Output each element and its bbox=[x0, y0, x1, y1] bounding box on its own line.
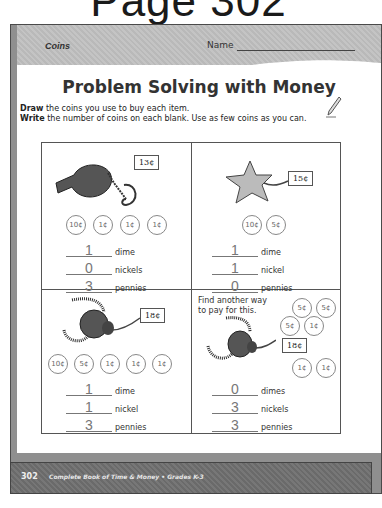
problem-cell-whistle: 13¢ 10¢ 1¢ 1¢ 1¢ 1dime 0nickels 3pennies bbox=[42, 143, 191, 289]
coin-penny: 1¢ bbox=[292, 358, 312, 378]
answer-label: nickels bbox=[115, 266, 142, 275]
coin-penny: 1¢ bbox=[120, 215, 140, 235]
name-field[interactable] bbox=[237, 50, 355, 51]
answer-label: pennies bbox=[261, 423, 292, 432]
coin-nickel: 5¢ bbox=[266, 215, 286, 235]
footer-band: 302 Complete Book of Time & Money • Grad… bbox=[10, 462, 372, 494]
price-tag: 15¢ bbox=[288, 171, 313, 186]
answer-label: nickel bbox=[115, 405, 138, 414]
instruction-text: the number of coins on each blank. Use a… bbox=[45, 114, 307, 123]
coin-nickel: 5¢ bbox=[280, 316, 300, 336]
coin-penny: 1¢ bbox=[152, 354, 172, 374]
prompt-text: Find another wayto pay for this. bbox=[198, 296, 267, 316]
problem-grid: 13¢ 10¢ 1¢ 1¢ 1¢ 1dime 0nickels 3pennies… bbox=[41, 142, 341, 434]
coin-penny: 1¢ bbox=[147, 215, 167, 235]
answer-label: nickels bbox=[261, 405, 288, 414]
page-number: 302 bbox=[21, 472, 38, 481]
coin-nickel: 5¢ bbox=[292, 298, 312, 318]
answer-value: 0 bbox=[212, 381, 258, 397]
answer-label: dime bbox=[261, 248, 281, 257]
instruction-1: Draw the coins you use to buy each item. bbox=[20, 104, 189, 113]
page-title: Page 302 bbox=[0, 0, 377, 26]
price-tag: 18¢ bbox=[140, 308, 165, 323]
whistle-icon bbox=[52, 155, 142, 210]
coin-nickel: 5¢ bbox=[74, 354, 94, 374]
answer-label: nickel bbox=[261, 266, 284, 275]
coin-penny: 1¢ bbox=[304, 316, 324, 336]
problem-cell-another-way: Find another wayto pay for this. 18¢ 5¢ … bbox=[192, 290, 341, 436]
coin-dime: 10¢ bbox=[48, 354, 68, 374]
instruction-verb: Write bbox=[20, 114, 45, 123]
name-label: Name bbox=[207, 40, 234, 50]
answer-value: 1 bbox=[66, 381, 112, 397]
instruction-text: the coins you use to buy each item. bbox=[43, 104, 189, 113]
answer-value: 3 bbox=[212, 417, 258, 433]
coin-penny: 1¢ bbox=[93, 215, 113, 235]
answer-value: 3 bbox=[66, 417, 112, 433]
problem-cell-caterpillar: 18¢ 10¢ 5¢ 1¢ 1¢ 1¢ 1dime 1nickel 3penni… bbox=[42, 290, 191, 436]
answer-value: 3 bbox=[212, 399, 258, 415]
problem-cell-starfish: 15¢ 10¢ 5¢ 1dime 1nickel 0pennies bbox=[192, 143, 341, 289]
coin-penny: 1¢ bbox=[316, 358, 336, 378]
starfish-icon bbox=[222, 157, 292, 212]
caterpillar-icon bbox=[62, 296, 142, 346]
price-tag: 18¢ bbox=[282, 338, 307, 353]
answer-label: dime bbox=[115, 248, 135, 257]
coin-dime: 10¢ bbox=[66, 215, 86, 235]
answer-label: dimes bbox=[261, 387, 285, 396]
prompt-line: Find another way bbox=[198, 296, 267, 306]
answer-value: 1 bbox=[66, 242, 112, 258]
book-title: Complete Book of Time & Money • Grades K… bbox=[49, 473, 204, 480]
answer-value: 0 bbox=[66, 260, 112, 276]
answer-label: dime bbox=[115, 387, 135, 396]
coin-dime: 10¢ bbox=[242, 215, 262, 235]
answer-label: pennies bbox=[115, 423, 146, 432]
price-tag: 13¢ bbox=[134, 155, 159, 170]
caterpillar-icon bbox=[206, 314, 276, 364]
coin-penny: 1¢ bbox=[100, 354, 120, 374]
answer-value: 1 bbox=[66, 399, 112, 415]
coin-penny: 1¢ bbox=[126, 354, 146, 374]
answer-value: 1 bbox=[212, 242, 258, 258]
instruction-verb: Draw bbox=[20, 104, 43, 113]
worksheet-heading: Problem Solving with Money bbox=[17, 77, 381, 97]
instruction-2: Write the number of coins on each blank.… bbox=[20, 114, 306, 123]
answer-value: 1 bbox=[212, 260, 258, 276]
coin-nickel: 5¢ bbox=[316, 298, 336, 318]
section-label: Coins bbox=[45, 41, 70, 51]
pencil-icon bbox=[326, 96, 342, 118]
